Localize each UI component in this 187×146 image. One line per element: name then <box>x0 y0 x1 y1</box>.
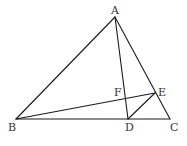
segments <box>16 17 170 119</box>
point-label-d: D <box>125 121 134 134</box>
geometry-diagram: ABCDEF <box>0 0 187 146</box>
point-label-f: F <box>114 86 122 99</box>
segment-ad <box>115 17 128 119</box>
point-labels: ABCDEF <box>8 4 178 134</box>
point-label-b: B <box>8 121 16 134</box>
point-label-e: E <box>158 86 166 99</box>
point-label-c: C <box>170 121 178 134</box>
segment-ac <box>115 17 170 119</box>
point-label-a: A <box>110 4 120 17</box>
